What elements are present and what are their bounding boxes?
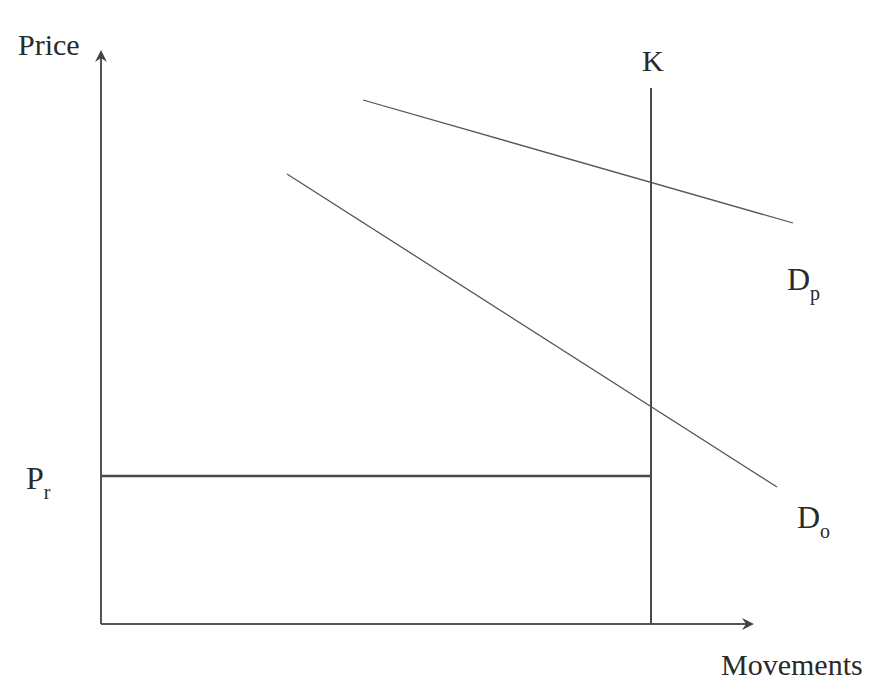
diagram-canvas: Price Movements K Dp Do Pr [0, 0, 894, 700]
do-label: Do [797, 499, 830, 542]
y-axis-label: Price [18, 28, 80, 61]
do-label-main: D [797, 499, 820, 535]
demand-curve-dp [363, 100, 793, 223]
k-label: K [642, 44, 664, 77]
pr-label-sub: r [44, 481, 51, 503]
demand-curve-do [287, 174, 777, 487]
pr-label: Pr [26, 460, 51, 503]
x-axis-label: Movements [721, 648, 863, 681]
do-label-sub: o [820, 520, 830, 542]
dp-label-sub: p [810, 282, 820, 305]
dp-label-main: D [787, 261, 810, 297]
pr-label-main: P [26, 460, 44, 496]
dp-label: Dp [787, 261, 820, 305]
